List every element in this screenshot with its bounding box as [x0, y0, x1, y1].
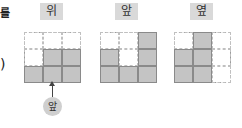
empty-cell — [24, 49, 43, 66]
empty-cell — [119, 49, 138, 66]
view-grid-top — [24, 32, 81, 83]
filled-cell — [174, 49, 193, 66]
cut-off-paren: ) — [0, 56, 5, 72]
filled-cell — [43, 49, 62, 66]
filled-cell — [138, 66, 157, 83]
empty-cell — [212, 49, 231, 66]
filled-cell — [138, 32, 157, 49]
empty-cell — [174, 32, 193, 49]
filled-cell — [174, 66, 193, 83]
filled-cell — [100, 49, 119, 66]
filled-cell — [193, 32, 212, 49]
empty-cell — [119, 32, 138, 49]
filled-cell — [138, 49, 157, 66]
view-label-front: 앞 — [115, 3, 138, 20]
arrow-shaft — [52, 83, 53, 97]
filled-cell — [100, 66, 119, 83]
view-label-top: 위 — [40, 3, 63, 20]
empty-cell — [212, 66, 231, 83]
view-label-side: 옆 — [190, 3, 213, 20]
view-grid-side — [174, 32, 231, 83]
filled-cell — [62, 49, 81, 66]
filled-cell — [119, 66, 138, 83]
filled-cell — [62, 66, 81, 83]
filled-cell — [24, 66, 43, 83]
empty-cell — [212, 32, 231, 49]
empty-cell — [43, 32, 62, 49]
filled-cell — [193, 49, 212, 66]
front-direction-marker: 앞 — [43, 97, 62, 116]
empty-cell — [24, 32, 43, 49]
view-grid-front — [100, 32, 157, 83]
empty-cell — [100, 32, 119, 49]
cut-off-text-top: 를 — [0, 4, 10, 20]
empty-cell — [62, 32, 81, 49]
filled-cell — [193, 66, 212, 83]
